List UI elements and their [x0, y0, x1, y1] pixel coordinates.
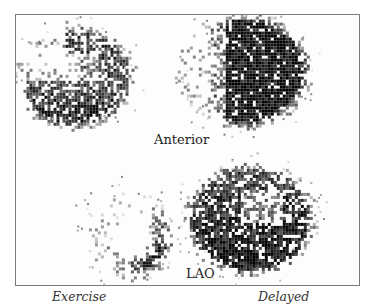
scan-frame: Anterior LAO: [15, 14, 360, 286]
caption-exercise: Exercise: [52, 289, 106, 304]
caption-delayed: Delayed: [258, 289, 309, 304]
anterior-delayed-panel: [175, 15, 321, 138]
anterior-exercise-panel: [16, 16, 144, 132]
label-anterior: Anterior: [154, 132, 209, 147]
scintigraphy-image: [16, 15, 359, 285]
label-lao: LAO: [186, 266, 215, 281]
lao-exercise-panel: [75, 176, 190, 285]
